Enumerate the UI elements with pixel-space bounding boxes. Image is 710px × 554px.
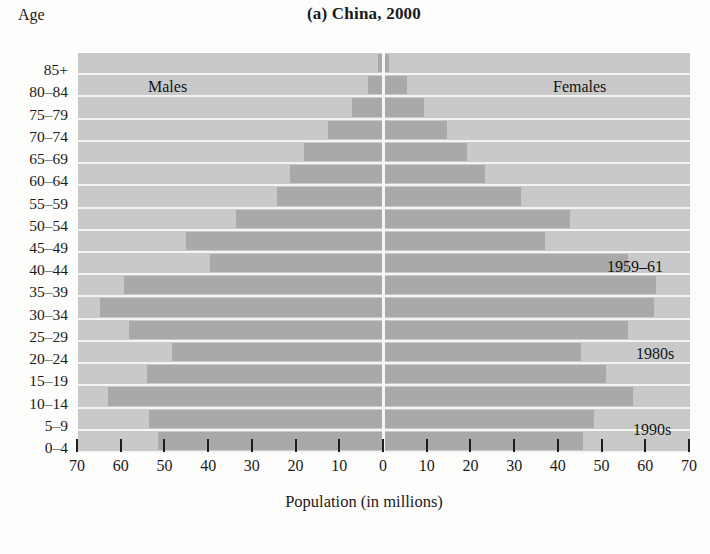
x-axis-tick (513, 439, 515, 452)
x-axis-tick-label: 40 (188, 457, 228, 475)
x-axis-tick-label: 40 (538, 457, 578, 475)
bar-female (383, 254, 628, 272)
population-pyramid-figure: Age (a) China, 2000 85+80–8475–7970–7465… (0, 0, 710, 554)
bar-male (186, 232, 383, 250)
y-axis-tick-label: 60–64 (0, 173, 68, 189)
bar-male (172, 343, 383, 361)
y-axis-tick-label: 85+ (0, 62, 68, 78)
x-axis-tick-label: 20 (276, 457, 316, 475)
bar-male (147, 365, 383, 383)
y-axis-tick-label: 20–24 (0, 351, 68, 367)
x-axis-tick (207, 439, 209, 452)
annotation-males: Males (148, 78, 187, 96)
x-axis-tick-label: 60 (101, 457, 141, 475)
x-axis-tick-label: 30 (494, 457, 534, 475)
x-axis-tick (644, 439, 646, 452)
x-axis-tick-label: 20 (450, 457, 490, 475)
bar-male (149, 410, 383, 428)
bar-male (210, 254, 383, 272)
x-axis-tick-label: 50 (144, 457, 184, 475)
x-axis-tick (426, 439, 428, 452)
x-axis-tick (120, 439, 122, 452)
bar-male (108, 387, 383, 405)
bar-male (236, 210, 383, 228)
y-axis-tick-label: 45–49 (0, 240, 68, 256)
bar-male (277, 187, 383, 205)
x-axis-tick-label: 70 (57, 457, 97, 475)
bar-female (383, 187, 521, 205)
center-axis-line (382, 53, 385, 453)
y-axis-labels: 85+80–8475–7970–7465–6960–6455–5950–5445… (0, 53, 74, 453)
bar-male (304, 143, 383, 161)
x-axis-tick (557, 439, 559, 452)
x-axis-tick-label: 70 (669, 457, 709, 475)
bar-female (383, 298, 654, 316)
y-axis-tick-label: 35–39 (0, 284, 68, 300)
bar-female (383, 321, 628, 339)
bar-male (368, 76, 383, 94)
y-axis-tick-label: 80–84 (0, 84, 68, 100)
annotation-1980s: 1980s (636, 345, 674, 363)
bar-female (383, 98, 424, 116)
x-axis-tick (251, 439, 253, 452)
x-axis: 70605040302010010203040506070 (78, 453, 690, 497)
x-axis-tick-label: 0 (363, 457, 403, 475)
y-axis-tick-label: 30–34 (0, 307, 68, 323)
x-axis-tick (338, 439, 340, 452)
y-axis-tick-label: 25–29 (0, 329, 68, 345)
x-axis-tick (295, 439, 297, 452)
x-axis-tick-label: 10 (407, 457, 447, 475)
x-axis-tick (382, 439, 384, 452)
plot-area (78, 53, 690, 453)
chart-title: (a) China, 2000 (0, 4, 710, 24)
bar-male (124, 276, 383, 294)
bar-female (383, 210, 570, 228)
bar-female (383, 432, 583, 450)
x-axis-tick (469, 439, 471, 452)
bar-female (383, 121, 447, 139)
bar-female (383, 387, 633, 405)
bar-female (383, 76, 407, 94)
y-axis-tick-label: 15–19 (0, 373, 68, 389)
bar-male (158, 432, 383, 450)
x-axis-tick (163, 439, 165, 452)
annotation-females: Females (553, 78, 606, 96)
x-axis-tick-label: 30 (232, 457, 272, 475)
bar-female (383, 143, 467, 161)
bar-female (383, 276, 656, 294)
y-axis-tick-label: 75–79 (0, 107, 68, 123)
x-axis-tick-label: 10 (319, 457, 359, 475)
x-axis-tick (76, 439, 78, 452)
annotation-famine: 1959–61 (607, 258, 663, 276)
y-axis-tick-label: 10–14 (0, 396, 68, 412)
x-axis-title: Population (in millions) (0, 492, 710, 512)
bar-male (328, 121, 383, 139)
x-axis-tick-label: 60 (625, 457, 665, 475)
bar-female (383, 165, 485, 183)
bar-female (383, 343, 581, 361)
y-axis-tick-label: 40–44 (0, 262, 68, 278)
y-axis-tick-label: 50–54 (0, 218, 68, 234)
x-axis-tick (688, 439, 690, 452)
bar-female (383, 232, 545, 250)
x-axis-tick-label: 50 (582, 457, 622, 475)
bar-female (383, 410, 594, 428)
y-axis-tick-label: 55–59 (0, 196, 68, 212)
bar-female (383, 365, 606, 383)
bar-male (352, 98, 383, 116)
bar-male (290, 165, 383, 183)
y-axis-tick-label: 65–69 (0, 151, 68, 167)
bar-male (100, 298, 383, 316)
x-axis-tick (601, 439, 603, 452)
bar-male (129, 321, 383, 339)
y-axis-tick-label: 0–4 (0, 440, 68, 456)
annotation-1990s: 1990s (633, 421, 671, 439)
y-axis-tick-label: 5–9 (0, 418, 68, 434)
y-axis-tick-label: 70–74 (0, 129, 68, 145)
